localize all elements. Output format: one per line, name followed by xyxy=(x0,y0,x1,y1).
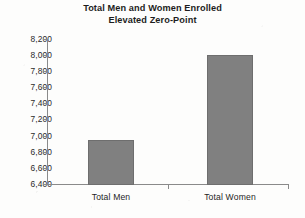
x-tick-mark-middle xyxy=(168,184,169,189)
bar-total-women xyxy=(207,55,253,185)
y-tick-label-6800: 6,800 xyxy=(31,147,52,157)
y-tick-label-7200: 7,200 xyxy=(31,114,52,124)
x-category-label-total-women: Total Women xyxy=(190,192,270,202)
x-tick-mark-right xyxy=(288,184,289,189)
plot-area: 8,200 8,000 7,800 7,600 7,400 7,200 7,00… xyxy=(0,0,305,218)
y-tick-label-7800: 7,800 xyxy=(31,66,52,76)
y-tick-label-8000: 8,000 xyxy=(31,50,52,60)
y-tick-label-7000: 7,000 xyxy=(31,131,52,141)
y-tick-label-7400: 7,400 xyxy=(31,98,52,108)
y-tick-label-8200: 8,200 xyxy=(31,34,52,44)
y-axis-line xyxy=(47,39,48,185)
x-category-label-total-men: Total Men xyxy=(76,192,146,202)
y-tick-label-7600: 7,600 xyxy=(31,82,52,92)
bar-chart-figure: Total Men and Women Enrolled Elevated Ze… xyxy=(0,0,305,218)
bar-total-men xyxy=(88,140,134,185)
y-tick-label-6600: 6,600 xyxy=(31,163,52,173)
